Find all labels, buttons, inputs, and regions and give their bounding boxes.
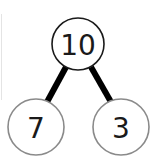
part-node-right: 3 — [93, 99, 149, 155]
part-node-left: 7 — [8, 99, 64, 155]
connector-left — [47, 67, 66, 102]
number-bond-diagram: 10 7 3 — [0, 0, 156, 163]
whole-node: 10 — [52, 18, 104, 70]
whole-label: 10 — [60, 29, 96, 62]
part-label-left: 7 — [27, 112, 45, 145]
part-label-right: 3 — [112, 112, 130, 145]
connector-right — [91, 67, 111, 102]
